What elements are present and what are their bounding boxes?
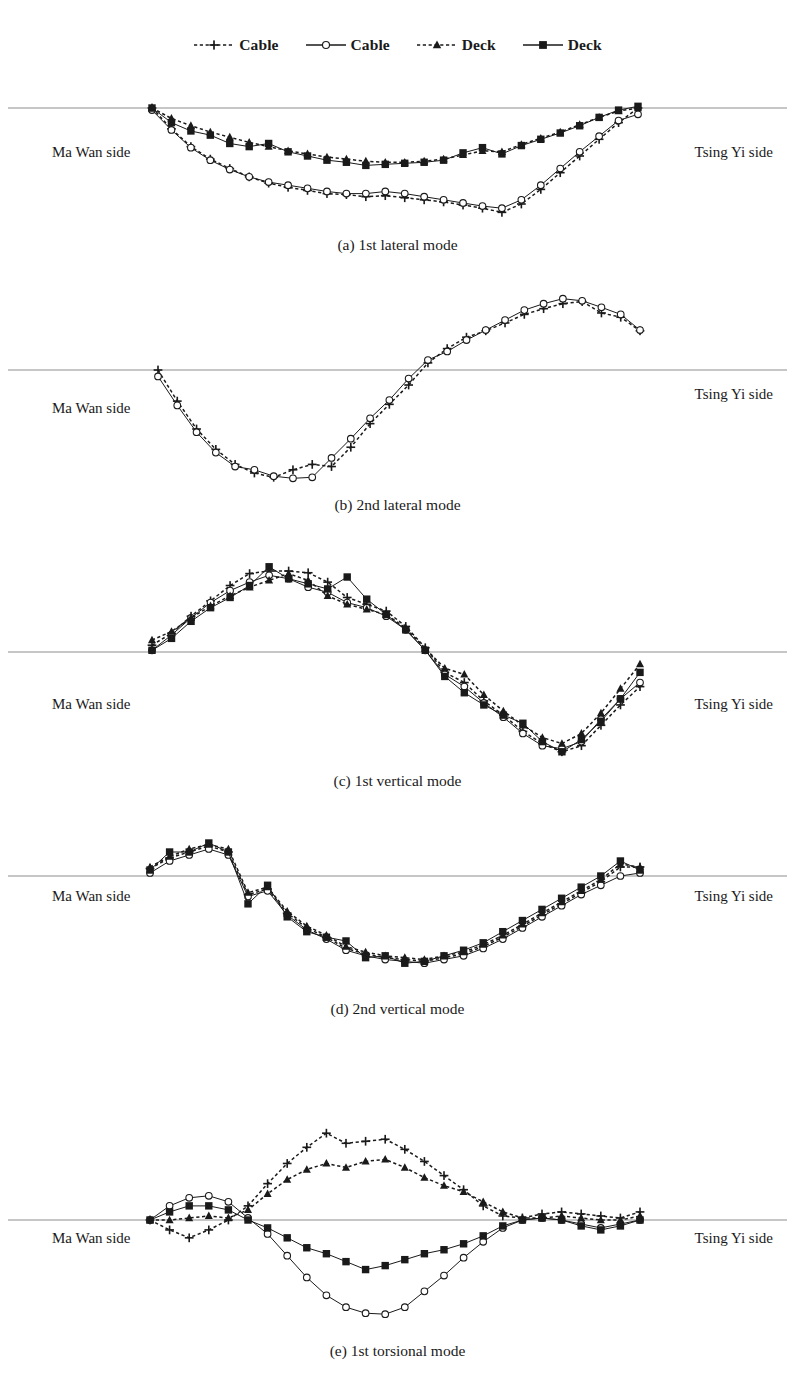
legend-entry-2: Deck — [416, 36, 496, 54]
legend-entry-3: Deck — [522, 36, 602, 54]
legend: CableCableDeckDeck — [0, 36, 795, 54]
series-cable-0 — [146, 1129, 645, 1242]
side-label-left-a: Ma Wan side — [52, 144, 131, 161]
panel-e: Ma Wan side Tsing Yi side (e) 1st torsio… — [0, 1108, 795, 1360]
legend-sample-square-icon — [522, 37, 564, 53]
series-cable-1 — [149, 107, 642, 212]
series-cable-1 — [155, 295, 644, 481]
side-label-right-d: Tsing Yi side — [695, 888, 773, 905]
series-line — [150, 845, 640, 960]
chart-d — [0, 828, 795, 998]
legend-sample-plus-icon — [193, 37, 235, 53]
side-label-left-e: Ma Wan side — [52, 1230, 131, 1247]
plot-d: Ma Wan side Tsing Yi side — [0, 828, 795, 998]
series-line — [150, 846, 640, 961]
legend-sample-triangle-icon — [416, 37, 458, 53]
series-line — [150, 1133, 640, 1238]
legend-label: Cable — [351, 36, 390, 54]
series-deck-2 — [148, 104, 642, 166]
series-cable-0 — [148, 104, 643, 217]
chart-e — [0, 1108, 795, 1340]
series-cable-1 — [147, 1192, 644, 1317]
series-deck-3 — [146, 839, 643, 967]
series-cable-0 — [146, 842, 645, 966]
chart-c — [0, 548, 795, 770]
legend-label: Deck — [462, 36, 496, 54]
side-label-right-e: Tsing Yi side — [695, 1230, 773, 1247]
panel-a: Ma Wan side Tsing Yi side (a) 1st latera… — [0, 92, 795, 254]
plot-e: Ma Wan side Tsing Yi side — [0, 1108, 795, 1340]
side-label-right-a: Tsing Yi side — [695, 144, 773, 161]
series-line — [150, 1206, 640, 1270]
plot-c: Ma Wan side Tsing Yi side — [0, 548, 795, 770]
series-line — [152, 110, 638, 208]
series-deck-3 — [146, 1202, 643, 1273]
panel-d: Ma Wan side Tsing Yi side (d) 2nd vertic… — [0, 828, 795, 1018]
caption-c: (c) 1st vertical mode — [0, 772, 795, 790]
plot-b: Ma Wan side Tsing Yi side — [0, 282, 795, 494]
series-line — [152, 575, 640, 748]
legend-entry-0: Cable — [193, 36, 278, 54]
series-line — [152, 108, 638, 212]
series-line — [152, 567, 640, 752]
legend-label: Cable — [239, 36, 278, 54]
side-label-left-c: Ma Wan side — [52, 696, 131, 713]
panel-c: Ma Wan side Tsing Yi side (c) 1st vertic… — [0, 548, 795, 790]
chart-b — [0, 282, 795, 494]
series-line — [150, 1196, 640, 1314]
series-line — [158, 299, 640, 479]
series-line — [152, 574, 640, 744]
caption-b: (b) 2nd lateral mode — [0, 496, 795, 514]
series-line — [150, 1159, 640, 1220]
legend-entry-1: Cable — [305, 36, 390, 54]
side-label-right-b: Tsing Yi side — [695, 386, 773, 403]
legend-sample-circle-icon — [305, 37, 347, 53]
side-label-left-d: Ma Wan side — [52, 888, 131, 905]
plot-a: Ma Wan side Tsing Yi side — [0, 92, 795, 234]
legend-label: Deck — [568, 36, 602, 54]
caption-d: (d) 2nd vertical mode — [0, 1000, 795, 1018]
chart-a — [0, 92, 795, 234]
caption-a: (a) 1st lateral mode — [0, 236, 795, 254]
series-line — [150, 849, 640, 963]
side-label-right-c: Tsing Yi side — [695, 696, 773, 713]
series-line — [152, 571, 640, 752]
side-label-left-b: Ma Wan side — [52, 400, 131, 417]
panel-b: Ma Wan side Tsing Yi side (b) 2nd latera… — [0, 282, 795, 514]
series-cable-1 — [147, 846, 644, 967]
caption-e: (e) 1st torsional mode — [0, 1342, 795, 1360]
series-line — [152, 108, 638, 162]
